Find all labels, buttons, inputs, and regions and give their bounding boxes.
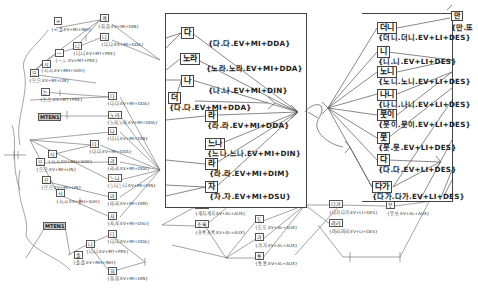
node-output-label: {통.통.EV+AL+AUX}	[255, 261, 298, 266]
node-output-label: {만.또	[451, 22, 474, 32]
graph-node[interactable]: 휘	[108, 267, 117, 275]
node-output-label: {라.라.EV+MI+DIM}	[209, 168, 290, 178]
graph-node[interactable]: 다	[108, 92, 117, 100]
node-output-label: {뭇이.뭇이.EV+LI+DES}	[378, 119, 471, 129]
graph-node[interactable]: 다	[90, 140, 99, 148]
graph-node[interactable]: 계	[100, 14, 109, 22]
graph-node[interactable]: 자	[108, 212, 117, 220]
node-output-label: {는,는.EV+MT+PRE}	[40, 97, 83, 102]
node-output-label: {다,다.EV+MI+DDA}	[89, 149, 132, 154]
node-output-label: {뭇.뭇.EV+LI+DES}	[378, 142, 457, 152]
node-output-label: {시,시.EV+MH+SUH}	[41, 68, 85, 73]
node-output-label: {다가.다가.EV+LI+DES}	[329, 210, 378, 215]
graph-node[interactable]: 다가	[329, 200, 343, 208]
graph-node[interactable]: 시	[42, 60, 51, 68]
node-output-label: {다.다.EV+MI+DDA}	[169, 102, 252, 112]
node-output-label: {다,다.EV+MI+DDA}	[101, 42, 144, 47]
node-output-label: {자.자.EV+MI+DSU}	[209, 191, 291, 201]
graph-node[interactable]: 시	[48, 150, 57, 158]
node-output-label: {느나.느나.EV+MI+DIN}	[207, 148, 301, 158]
node-output-label: {도.도.EV+AL+AUX}	[255, 225, 298, 230]
node-output-label: {휘,휘.EV+MI+DIN}	[107, 276, 148, 281]
graph-node[interactable]: 노라	[108, 111, 122, 119]
node-output-label: {다.다.EV+MI+DDA}	[208, 38, 291, 48]
node-output-label: {노니.노니.EV+LI+DES}	[378, 76, 471, 86]
graph-node[interactable]: 시	[56, 189, 65, 197]
node-output-label: {라,라.EV+MI+DIM}	[107, 201, 148, 206]
node-output-label: {가.가.EV+AL+AUX}	[255, 243, 298, 248]
node-output-label: {라.라.EV+MI+DDA}	[207, 120, 290, 130]
node-output-label: {더니.더니.EV+LI+DES}	[378, 32, 471, 42]
graph-node[interactable]: 조록	[195, 220, 209, 228]
transducer-graph-canvas: = 계 니 니 ㅡ 시 으 는 다 MTEN1 노라 나 다 시 으 라 으 느…	[0, 0, 478, 293]
graph-node[interactable]: 도	[255, 215, 264, 223]
graph-node[interactable]: 다	[181, 27, 194, 39]
node-output-label: {니,니.EV+MT+PRE}	[86, 249, 129, 254]
graph-node[interactable]: 니	[86, 240, 95, 248]
node-output-label: {노라,노라.EV+MI+DDA}	[107, 120, 158, 125]
node-output-label: {으,으.EV+MI+LIN}	[36, 167, 76, 172]
node-output-label: {휘,휘.EV+MI+DIN}	[98, 24, 139, 29]
node-output-label: {시,시.EV+MH+SUH}	[48, 159, 92, 164]
node-output-label: {자,자.EV+MI+DSU}	[107, 221, 149, 226]
subgraph-node-mten1[interactable]: MTEN1	[38, 113, 61, 121]
node-output-label: {솔,솔.EV+MH+INH}	[73, 260, 116, 265]
graph-node[interactable]: 만	[451, 11, 463, 21]
node-output-label: {다,다.EV+MI+DDA}	[107, 239, 150, 244]
node-output-label: {시,시.EV+MH+SUH}	[56, 199, 100, 204]
graph-node[interactable]: 니	[100, 33, 109, 41]
node-output-label: {려러.려러.EV+LI+DES}	[329, 229, 378, 234]
node-output-label: {다가.다가.EV+LI+DES}	[372, 191, 465, 201]
node-output-label: {=,솔.EV+MI+INH}	[51, 27, 91, 32]
node-output-label: {으,으.EV+MI+LIN}	[41, 185, 81, 190]
graph-node[interactable]: 노라	[180, 53, 200, 65]
graph-node[interactable]: 라	[108, 157, 117, 165]
node-output-label: {니,니.EV+MT+PRE}	[73, 51, 116, 56]
node-output-label: {니.니.EV+LI+DES}	[378, 56, 457, 66]
graph-node[interactable]: 으	[30, 69, 39, 77]
graph-node[interactable]: 려러	[329, 219, 343, 227]
graph-node[interactable]: 가	[255, 233, 264, 241]
graph-node[interactable]: 뭇	[386, 201, 395, 209]
node-output-label: {다,다.EV+MI+DDA}	[107, 101, 150, 106]
node-output-label: {뭇.또.EV+AL+AUX}	[387, 211, 430, 216]
node-output-label: {느나,느나.EV+MI+DIN}	[107, 183, 156, 188]
node-output-label: {나.나.EV+MI+DIN}	[208, 85, 288, 95]
node-output-label: {다.다.EV+LI+DES}	[378, 164, 457, 174]
graph-node[interactable]: 다	[108, 230, 117, 238]
graph-node[interactable]: 나	[108, 127, 117, 135]
graph-node[interactable]: ㅡ	[55, 49, 64, 57]
graph-node[interactable]: 느나	[108, 174, 122, 182]
node-output-label: {나,나.EV+MI+DIN}	[107, 136, 148, 141]
node-output-label: {게지.게지.EV+AL+AUX}	[195, 211, 246, 216]
graph-node[interactable]: =	[54, 17, 62, 25]
graph-node[interactable]: 으	[42, 176, 51, 184]
subgraph-node-mten1[interactable]: MTEN1	[43, 222, 66, 230]
node-output-label: {나니.나니.EV+LI+DES}	[378, 99, 471, 109]
graph-node[interactable]: 니	[73, 42, 82, 50]
node-output-label: {라,라.EV+MI+DDA}	[107, 166, 150, 171]
node-output-label: {노라.노라.EV+MI+DDA}	[206, 63, 303, 73]
graph-node[interactable]: 라	[108, 192, 117, 200]
graph-node[interactable]: 나	[181, 75, 194, 87]
graph-node[interactable]: 통	[255, 252, 264, 260]
node-output-label: {ㅡ,ㄴ.EV+MT+PRE}	[55, 58, 98, 63]
node-output-label: {으,으.EV+MI+LIN}	[29, 78, 69, 83]
graph-node[interactable]: 는	[41, 88, 50, 96]
graph-node[interactable]: 솔	[74, 251, 83, 259]
node-output-label: {조록.조록.EV+AL+AUX}	[195, 230, 246, 235]
graph-node[interactable]: 으	[36, 158, 45, 166]
